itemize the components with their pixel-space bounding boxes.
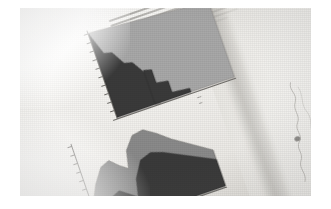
highlight-top-left xyxy=(20,8,130,108)
highlight-bottom-left xyxy=(20,106,150,196)
photograph: ········································… xyxy=(20,8,311,196)
